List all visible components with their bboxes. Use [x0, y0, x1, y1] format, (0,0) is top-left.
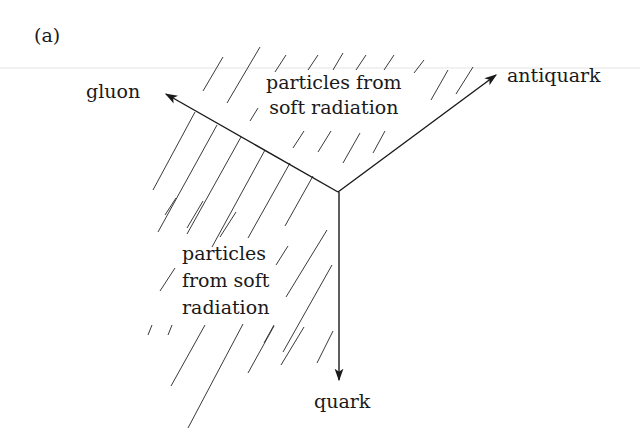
left-region-line-2: from soft — [182, 267, 269, 294]
panel-label: (a) — [34, 24, 60, 47]
top-region-line-2: soft radiation — [266, 95, 402, 120]
quark-label: quark — [314, 390, 370, 413]
diagram-canvas: (a) gluon antiquark quark particles from… — [0, 0, 640, 446]
left-region-line-1: particles — [182, 240, 269, 267]
left-region-line-3: radiation — [182, 294, 269, 321]
gluon-label: gluon — [86, 80, 140, 103]
antiquark-label: antiquark — [507, 64, 601, 87]
top-region-label: particles from soft radiation — [266, 70, 402, 120]
left-region-label: particles from soft radiation — [182, 240, 269, 321]
top-region-line-1: particles from — [266, 70, 402, 95]
